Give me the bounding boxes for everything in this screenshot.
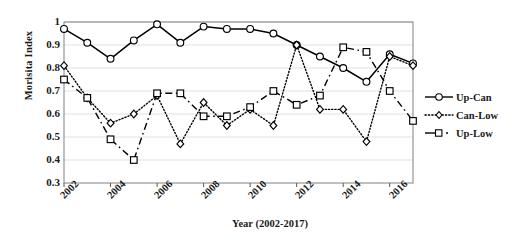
x-axis-title: Year (2002-2017) [120,218,420,229]
solid-circle-key [424,91,454,103]
chart-legend: Up-Can Can-Low Up-Low [424,88,512,142]
legend-label: Up-Can [454,92,492,103]
x-tick-label: 2010 [246,178,269,201]
x-tick-label: 2002 [58,178,81,201]
legend-item-up-low: Up-Low [424,124,512,142]
chart-figure: Morisita Index 1 0.9 0.8 0.7 0.6 0.5 0.4… [0,0,512,246]
x-tick-label: 2016 [387,178,410,201]
legend-item-can-low: Can-Low [424,106,512,124]
legend-label: Up-Low [454,128,493,139]
legend-item-up-can: Up-Can [424,88,512,106]
x-tick-label: 2004 [105,178,128,201]
x-tick-label: 2008 [199,178,222,201]
x-tick-label: 2012 [293,178,316,201]
legend-label: Can-Low [454,110,498,121]
x-tick-label: 2014 [340,178,363,201]
dashed-square-key [424,127,454,139]
dotted-diamond-key [424,109,454,121]
x-tick-label: 2006 [152,178,175,201]
